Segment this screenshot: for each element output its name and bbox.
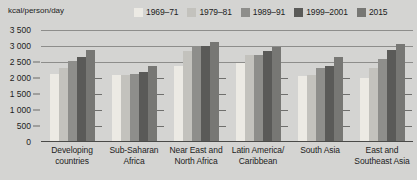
x-axis-category-label: Developingcountries [41, 145, 103, 178]
gridline-dash [405, 126, 412, 127]
x-axis-category-label: Latin America/Caribbean [227, 145, 289, 178]
bar[interactable] [369, 68, 378, 142]
y-axis-tick: 2 000 [0, 74, 41, 83]
legend-swatch-icon [357, 8, 366, 17]
bar-group [103, 30, 165, 142]
bar[interactable] [298, 76, 307, 142]
bar[interactable] [245, 55, 254, 142]
gridline-dash [95, 78, 102, 79]
y-axis: 05001 0001 5002 0002 5003 0003 500 [0, 30, 41, 143]
inner-tick-marks [157, 30, 165, 142]
legend-swatch-icon [241, 8, 250, 17]
gridline-dash [219, 126, 226, 127]
bar[interactable] [360, 78, 369, 142]
gridline-dash [281, 126, 288, 127]
y-axis-tick-mark [33, 62, 40, 63]
bar[interactable] [387, 50, 396, 142]
bar[interactable] [272, 47, 281, 142]
gridline-dash [95, 126, 102, 127]
bar[interactable] [174, 66, 183, 142]
bar[interactable] [77, 57, 86, 142]
gridline-dash [157, 110, 164, 111]
bar-group [351, 30, 413, 142]
inner-tick-marks [343, 30, 351, 142]
bar[interactable] [334, 57, 343, 142]
legend-label: 1969–71 [146, 8, 178, 17]
legend-item: 1979–81 [187, 8, 231, 17]
x-axis-categories: DevelopingcountriesSub-SaharanAfricaNear… [41, 145, 413, 178]
bar[interactable] [263, 51, 272, 142]
gridline-dash [219, 78, 226, 79]
y-axis-tick: 500 [0, 122, 41, 131]
y-axis-tick: 3 000 [0, 42, 41, 51]
bar[interactable] [378, 59, 387, 142]
bar[interactable] [325, 66, 334, 142]
bar[interactable] [59, 68, 68, 142]
y-axis-tick-mark [33, 110, 40, 111]
gridline-dash [281, 78, 288, 79]
y-axis-tick: 1 500 [0, 90, 41, 99]
chart-legend: 1969–71 1979–81 1989–91 1999–2001 2015 [134, 6, 387, 18]
bar[interactable] [192, 46, 201, 142]
bar-group [227, 30, 289, 142]
gridline-dash [157, 78, 164, 79]
legend-swatch-icon [294, 8, 303, 17]
bar-group [165, 30, 227, 142]
gridline-dash [343, 78, 350, 79]
bar[interactable] [50, 74, 59, 142]
gridline-dash [343, 126, 350, 127]
bar[interactable] [86, 50, 95, 142]
bar[interactable] [112, 75, 121, 142]
bar-group [41, 30, 103, 142]
bar-groups [41, 30, 413, 142]
y-axis-tick: 1 000 [0, 106, 41, 115]
bar[interactable] [396, 44, 405, 142]
bar-chart: kcal/person/day 1969–71 1979–81 1989–91 … [0, 0, 417, 180]
gridline-dash [405, 78, 412, 79]
bar[interactable] [148, 66, 157, 142]
inner-tick-marks [281, 30, 289, 142]
inner-tick-marks [219, 30, 227, 142]
y-axis-title: kcal/person/day [8, 6, 64, 15]
legend-item: 1989–91 [241, 8, 285, 17]
bar[interactable] [236, 63, 245, 142]
gridline-dash [219, 110, 226, 111]
y-axis-tick-mark [33, 94, 40, 95]
bar[interactable] [68, 61, 77, 142]
bar[interactable] [210, 42, 219, 142]
legend-item: 1969–71 [134, 8, 178, 17]
legend-item: 1999–2001 [294, 8, 348, 17]
legend-label: 1999–2001 [306, 8, 348, 17]
gridline-dash [343, 94, 350, 95]
bar[interactable] [307, 75, 316, 142]
bar[interactable] [201, 46, 210, 142]
legend-item: 2015 [357, 8, 388, 17]
axis-baseline [41, 141, 413, 142]
plot-area [41, 30, 413, 142]
y-axis-tick: 3 500 [0, 26, 41, 35]
bar[interactable] [183, 51, 192, 142]
gridline-dash [95, 110, 102, 111]
gridline-dash [219, 94, 226, 95]
bar[interactable] [121, 75, 130, 142]
y-axis-tick-mark [33, 126, 40, 127]
x-axis-category-label: South Asia [289, 145, 351, 178]
x-axis-category-label: Sub-SaharanAfrica [103, 145, 165, 178]
gridline-dash [281, 94, 288, 95]
y-axis-tick-mark [33, 78, 40, 79]
gridline-dash [157, 94, 164, 95]
legend-label: 2015 [369, 8, 388, 17]
bar[interactable] [139, 72, 148, 142]
y-axis-tick: 2 500 [0, 58, 41, 67]
legend-label: 1989–91 [253, 8, 285, 17]
bar[interactable] [316, 68, 325, 142]
bar[interactable] [254, 55, 263, 142]
gridline-dash [405, 110, 412, 111]
gridline-dash [157, 126, 164, 127]
x-axis-category-label: East andSoutheast Asia [351, 145, 413, 178]
gridline-dash [281, 110, 288, 111]
y-axis-tick-label: 3 000 [10, 42, 41, 51]
y-axis-tick: 0 [0, 138, 41, 147]
bar-group [289, 30, 351, 142]
bar[interactable] [130, 74, 139, 142]
